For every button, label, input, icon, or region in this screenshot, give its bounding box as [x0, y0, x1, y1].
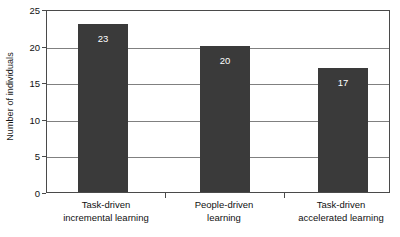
bar-value-label: 17: [318, 77, 368, 88]
y-tick-label-20: 20: [18, 42, 40, 53]
x-category-label-2-line-2: accelerated learning: [285, 212, 397, 225]
bar-chart: Number of individuals 0 5 10 15 20 25 23…: [0, 0, 400, 237]
x-category-label-0-line-2: incremental learning: [46, 212, 166, 225]
x-category-label-1: People-driven learning: [168, 199, 280, 224]
y-tick-label-5: 5: [18, 151, 40, 162]
x-tick-separator-2: [284, 193, 285, 198]
x-category-label-2: Task-driven accelerated learning: [285, 199, 397, 224]
bar-task-driven-incremental-learning: 23: [78, 24, 128, 192]
x-category-label-1-line-2: learning: [168, 212, 280, 225]
plot-area: 23 20 17: [46, 10, 390, 193]
y-tick-label-15: 15: [18, 78, 40, 89]
y-tick-mark-0: [42, 193, 46, 194]
x-category-label-0-line-1: Task-driven: [46, 199, 166, 212]
y-tick-label-0: 0: [18, 188, 40, 199]
x-tick-separator-1: [165, 193, 166, 198]
bar-people-driven-learning: 20: [200, 46, 250, 192]
y-tick-label-10: 10: [18, 115, 40, 126]
x-category-label-2-line-1: Task-driven: [285, 199, 397, 212]
bar-task-driven-accelerated-learning: 17: [318, 68, 368, 192]
bar-value-label: 23: [78, 33, 128, 44]
y-axis-title: Number of individuals: [2, 0, 18, 193]
y-tick-label-25: 25: [18, 5, 40, 16]
bar-value-label: 20: [200, 55, 250, 66]
x-category-label-0: Task-driven incremental learning: [46, 199, 166, 224]
x-category-label-1-line-1: People-driven: [168, 199, 280, 212]
